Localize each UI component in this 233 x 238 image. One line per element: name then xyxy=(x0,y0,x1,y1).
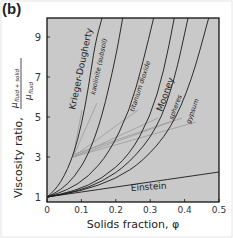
y-axis-denominator: μ xyxy=(23,94,33,101)
x-tick-label: 0.5 xyxy=(212,205,226,215)
y-axis-label-main: Viscosity ratio, xyxy=(12,117,25,198)
x-tick-label: 0 xyxy=(44,205,50,215)
y-axis-label: Viscosity ratio, μ fluid + solid μ fluid xyxy=(9,58,34,198)
y-tick-label: 5 xyxy=(35,112,41,123)
y-tick-label: 3 xyxy=(35,152,41,163)
x-tick-label: 0.4 xyxy=(177,205,192,215)
y-tick-label: 9 xyxy=(35,32,41,43)
y-tick-label: 1 xyxy=(35,192,41,203)
chart-svg: 13579 00.10.20.30.40.5 Krieger-Dougherty… xyxy=(0,0,233,238)
y-axis-denominator-sub: fluid xyxy=(28,81,34,94)
x-axis-label: Solids fraction, φ xyxy=(87,218,180,231)
x-tick-label: 0.2 xyxy=(109,205,123,215)
y-tick-label: 7 xyxy=(35,72,41,83)
x-tick-label: 0.3 xyxy=(143,205,157,215)
y-axis-numerator-sub: fluid + solid xyxy=(14,69,20,102)
y-axis-numerator: μ xyxy=(9,102,19,109)
x-tick-label: 0.1 xyxy=(74,205,88,215)
chart-frame: (b) 13579 00.10.20.30.40.5 Krieger-Dough… xyxy=(0,0,233,238)
